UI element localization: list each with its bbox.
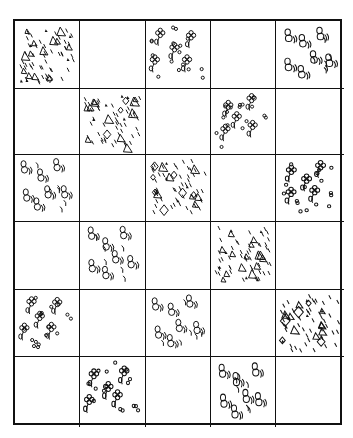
bees-pattern-icon — [15, 155, 79, 221]
bees-square — [15, 155, 80, 222]
blank-square — [211, 290, 276, 357]
blank-square — [211, 155, 276, 222]
blank-square — [146, 222, 211, 290]
bees-pattern-icon — [146, 290, 210, 356]
blank-square — [276, 89, 344, 155]
triangles-square — [276, 290, 344, 357]
bees-pattern-icon — [211, 357, 275, 427]
blank-square — [15, 357, 80, 427]
blank-square — [146, 357, 211, 427]
bees-pattern-icon — [80, 222, 145, 289]
triangles-pattern-icon — [15, 21, 79, 88]
flowers-square — [80, 357, 146, 427]
flowers-square — [211, 89, 276, 155]
triangles-square — [211, 222, 276, 290]
quilt-grid — [13, 19, 342, 425]
flowers-pattern-icon — [80, 357, 145, 427]
blank-square — [146, 89, 211, 155]
blank-square — [80, 290, 146, 357]
bees-square — [211, 357, 276, 427]
triangles-pattern-icon — [211, 222, 275, 289]
blank-square — [211, 21, 276, 89]
blank-square — [80, 21, 146, 89]
flowers-pattern-icon — [146, 21, 210, 88]
blank-square — [15, 89, 80, 155]
triangles-square — [15, 21, 80, 89]
blank-square — [276, 222, 344, 290]
bees-square — [80, 222, 146, 290]
flowers-pattern-icon — [211, 89, 275, 154]
triangles-pattern-icon — [146, 155, 210, 221]
triangles-square — [80, 89, 146, 155]
blank-square — [80, 155, 146, 222]
blank-square — [276, 357, 344, 427]
flowers-square — [146, 21, 211, 89]
triangles-pattern-icon — [276, 290, 344, 356]
triangles-square — [146, 155, 211, 222]
flowers-square — [15, 290, 80, 357]
bees-pattern-icon — [276, 21, 344, 88]
flowers-square — [276, 155, 344, 222]
grid-container — [13, 19, 342, 425]
blank-square — [15, 222, 80, 290]
bees-square — [146, 290, 211, 357]
bees-square — [276, 21, 344, 89]
flowers-pattern-icon — [15, 290, 79, 356]
triangles-pattern-icon — [80, 89, 145, 154]
flowers-pattern-icon — [276, 155, 344, 221]
